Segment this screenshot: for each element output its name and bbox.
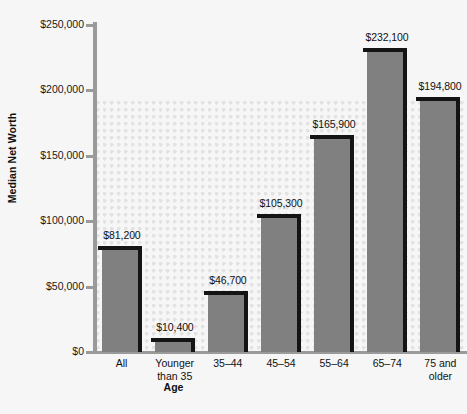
x-axis-category-label: 75 and older [410, 357, 467, 382]
x-axis-category-label: Younger than 35 [144, 357, 205, 382]
bar [420, 97, 460, 352]
bar [367, 48, 407, 352]
x-axis-category-label: 65–74 [357, 357, 418, 370]
bar-bevel-corner [98, 246, 102, 250]
y-axis-tick [86, 89, 95, 92]
bar-value-label: $81,200 [82, 229, 162, 241]
bar [155, 338, 195, 352]
y-axis-tick [86, 351, 95, 354]
x-axis-category-label: 35–44 [197, 357, 258, 370]
x-axis-category-label: 45–54 [250, 357, 311, 370]
y-axis-tick [86, 220, 95, 223]
bar-value-label: $232,100 [347, 31, 427, 43]
bar-bevel-corner [363, 48, 367, 52]
bar-bevel-corner [310, 135, 314, 139]
x-axis-title: Age [0, 381, 467, 393]
bar-value-label: $165,900 [294, 118, 374, 130]
y-axis-tick [86, 155, 95, 158]
x-axis-category-label: 55–64 [304, 357, 365, 370]
y-axis-tick-label: $0 [0, 345, 84, 357]
bar-bevel-corner [151, 338, 155, 342]
bar-value-label: $46,700 [188, 274, 268, 286]
bar [261, 214, 301, 352]
y-axis-tick-label: $50,000 [0, 280, 84, 292]
y-axis-tick [86, 286, 95, 289]
bar-value-label: $194,800 [400, 80, 467, 92]
bar [208, 291, 248, 352]
y-axis-tick-label: $250,000 [0, 18, 84, 30]
bar [102, 246, 142, 352]
bar [314, 135, 354, 352]
y-axis-line [93, 22, 97, 354]
bar-bevel-corner [257, 214, 261, 218]
bar-value-label: $10,400 [135, 321, 215, 333]
bar-value-label: $105,300 [241, 197, 321, 209]
bar-bevel-corner [416, 97, 420, 101]
bar-chart: $0$50,000$100,000$150,000$200,000$250,00… [0, 0, 467, 414]
x-axis-title-text: Age [164, 381, 184, 393]
y-axis-title: Median Net Worth [6, 68, 18, 248]
x-axis-category-label: All [91, 357, 152, 370]
bar-bevel-corner [204, 291, 208, 295]
y-axis-tick [86, 24, 95, 27]
